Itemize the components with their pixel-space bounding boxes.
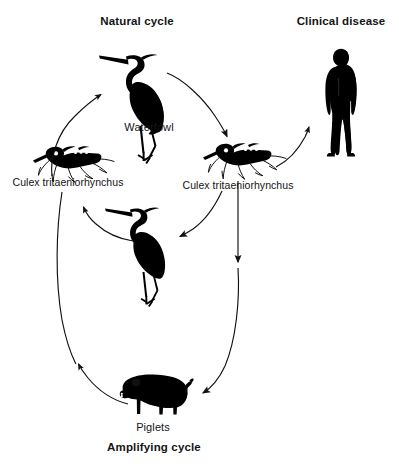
- diagram-canvas: [0, 0, 399, 470]
- vector-right-label: Culex tritaeniorhynchus: [183, 180, 294, 191]
- mosquito-silhouette-icon: [203, 143, 286, 179]
- waterfowl-label: Waterfowl: [124, 122, 173, 133]
- arrow-vector-right-to-human: [276, 127, 309, 167]
- vector-left-label: Culex tritaeniorhynchus: [13, 177, 124, 188]
- arrow-waterfowl-to-vector-right: [167, 73, 227, 137]
- heron-silhouette-icon: [99, 54, 164, 164]
- arrow-vector-right-to-piglets: [203, 268, 238, 393]
- clinical-disease-title: Clinical disease: [297, 16, 386, 28]
- piglets-label: Piglets: [136, 422, 170, 433]
- natural-cycle-title: Natural cycle: [100, 16, 174, 28]
- transmission-cycle-diagram: Natural cycle Clinical disease Waterfowl…: [0, 0, 399, 470]
- arrow-piglets-to-vector-left: [79, 364, 129, 404]
- human-silhouette-icon: [325, 49, 356, 157]
- arrow-vector-right-to-waterfowl-mid: [180, 191, 222, 237]
- amplifying-cycle-title: Amplifying cycle: [107, 442, 201, 454]
- pig-silhouette-icon: [120, 374, 194, 414]
- heron-silhouette-icon: [105, 207, 165, 307]
- arrow-vector-left-down-segment: [57, 192, 76, 364]
